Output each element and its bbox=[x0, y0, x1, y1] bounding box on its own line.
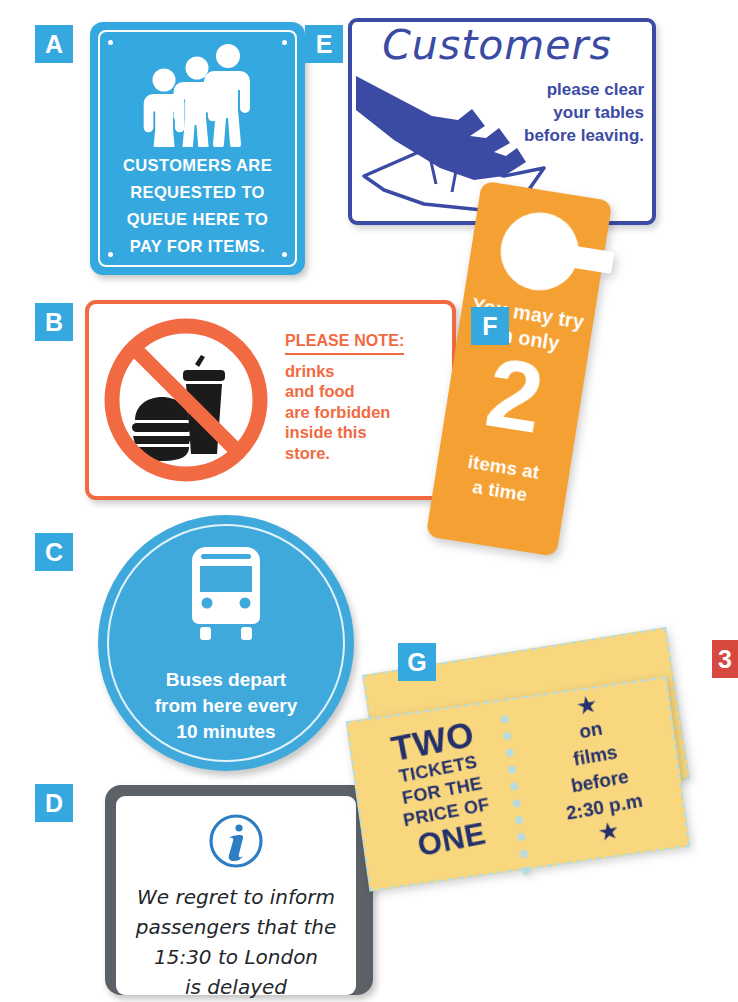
three-people-queue-icon bbox=[90, 42, 305, 147]
sign-f-number: 2 bbox=[442, 337, 588, 454]
sign-c-line-3: 10 minutes bbox=[112, 719, 340, 745]
sign-d-face: We regret to inform passengers that the … bbox=[116, 796, 356, 995]
information-i-icon bbox=[207, 812, 265, 874]
sign-a-line-3: QUEUE HERE TO bbox=[100, 206, 295, 233]
sign-a-line-2: REQUESTED TO bbox=[100, 179, 295, 206]
badge-b: B bbox=[35, 303, 73, 341]
badge-a: A bbox=[35, 25, 73, 63]
sign-c-line-2: from here every bbox=[112, 693, 340, 719]
sign-c-text: Buses depart from here every 10 minutes bbox=[112, 667, 340, 745]
no-food-drink-sign: PLEASE NOTE: drinks and food are forbidd… bbox=[85, 300, 456, 500]
badge-f: F bbox=[471, 307, 509, 345]
ticket-right-text: ★ on films before 2:30 p.m ★ bbox=[520, 683, 674, 855]
sign-e-line-3: before leaving. bbox=[484, 124, 644, 147]
sign-d-line-3: 15:30 to London bbox=[124, 942, 348, 972]
bus-departure-sign: Buses depart from here every 10 minutes bbox=[98, 515, 354, 771]
sign-d-line-2: passengers that the bbox=[124, 912, 348, 942]
sign-d-line-1: We regret to inform bbox=[124, 882, 348, 912]
ticket-left-text: TWO TICKETS FOR THE PRICE OF ONE bbox=[361, 711, 524, 869]
sign-c-line-1: Buses depart bbox=[112, 667, 340, 693]
fitting-room-door-hanger: You may try on only 2 items at a time bbox=[426, 181, 613, 557]
sign-e-line-1: please clear bbox=[484, 78, 644, 101]
bus-front-icon bbox=[174, 543, 278, 651]
sign-b-line-4: inside this bbox=[285, 422, 446, 443]
badge-e: E bbox=[305, 25, 343, 63]
sign-e-text: please clear your tables before leaving. bbox=[484, 78, 644, 147]
queue-sign: CUSTOMERS ARE REQUESTED TO QUEUE HERE TO… bbox=[90, 22, 305, 275]
cinema-ticket-voucher: TWO TICKETS FOR THE PRICE OF ONE ★ on fi… bbox=[348, 650, 698, 890]
sign-d-line-4: is delayed bbox=[124, 972, 348, 1002]
sign-b-text: PLEASE NOTE: drinks and food are forbidd… bbox=[285, 330, 446, 463]
train-delay-notice: We regret to inform passengers that the … bbox=[105, 785, 373, 995]
queue-sign-text: CUSTOMERS ARE REQUESTED TO QUEUE HERE TO… bbox=[100, 152, 295, 260]
sign-a-line-4: PAY FOR ITEMS. bbox=[100, 233, 295, 260]
sign-b-heading: PLEASE NOTE: bbox=[285, 331, 404, 355]
sign-b-line-2: and food bbox=[285, 381, 446, 402]
badge-g: G bbox=[398, 643, 436, 681]
sign-b-line-1: drinks bbox=[285, 361, 446, 382]
sign-e-line-2: your tables bbox=[484, 101, 644, 124]
badge-d: D bbox=[35, 784, 73, 822]
badge-cut-off-red: 3 bbox=[712, 640, 738, 678]
sign-e-title: Customers bbox=[352, 20, 642, 70]
sign-b-line-5: store. bbox=[285, 443, 446, 464]
sign-b-line-3: are forbidden bbox=[285, 402, 446, 423]
sign-a-line-1: CUSTOMERS ARE bbox=[100, 152, 295, 179]
sign-d-text: We regret to inform passengers that the … bbox=[124, 882, 348, 1002]
no-food-or-drink-prohibition-icon bbox=[99, 314, 274, 486]
badge-c: C bbox=[35, 533, 73, 571]
